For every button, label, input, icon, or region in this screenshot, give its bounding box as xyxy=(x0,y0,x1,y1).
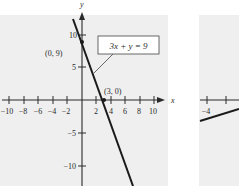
x-tick-label: −8 xyxy=(19,107,28,116)
x-tick-label: −2 xyxy=(62,107,71,116)
figure: x y −10 −8 −6 −4 −2 2 4 6 8 1 xyxy=(0,0,239,186)
x-tick-label: −10 xyxy=(1,107,14,116)
x-tick-label: 8 xyxy=(137,107,141,116)
right-x-tick-label: −4 xyxy=(202,107,211,116)
annotation-x-intercept: (3, 0) xyxy=(104,87,122,96)
x-tick-label: 10 xyxy=(149,107,157,116)
point-y-intercept xyxy=(80,40,84,44)
y-tick-label: −10 xyxy=(63,162,76,171)
x-tick-label: 6 xyxy=(123,107,127,116)
point-x-intercept xyxy=(102,98,106,102)
x-axis-label: x xyxy=(170,96,175,105)
y-tick-label: 5 xyxy=(72,63,76,72)
y-tick-label: −5 xyxy=(67,129,76,138)
x-tick-label: 4 xyxy=(109,107,113,116)
x-tick-label: −6 xyxy=(34,107,43,116)
annotation-y-intercept: (0, 9) xyxy=(45,49,63,58)
equation-label: 3x + y = 9 xyxy=(108,41,148,51)
y-tick-label: 10 xyxy=(69,31,77,40)
x-tick-label: −4 xyxy=(48,107,57,116)
y-axis-label: y xyxy=(79,0,84,9)
x-tick-label: 2 xyxy=(94,107,98,116)
